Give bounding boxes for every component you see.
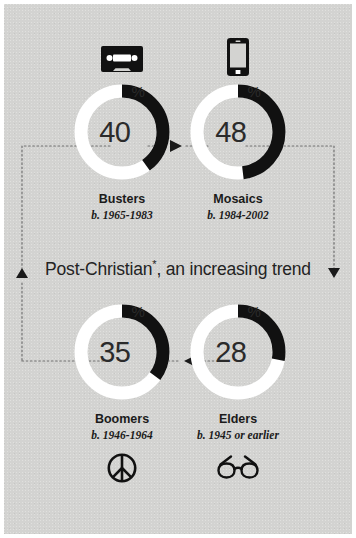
generation-card-boomers: 35 % Boomers b. 1946-1964	[62, 300, 182, 491]
generation-years-busters: b. 1965-1983	[62, 209, 182, 222]
headline-text-main: Post-Christian	[45, 259, 152, 279]
generation-name-mosaics: Mosaics	[178, 193, 298, 207]
donut-chart-elders: 28 %	[186, 300, 290, 404]
peace-sign-icon	[106, 452, 138, 484]
generation-name-busters: Busters	[62, 193, 182, 207]
generation-card-elders: 28 % Elders b. 1945 or earlier	[178, 300, 298, 491]
donut-chart-busters: 40 %	[70, 80, 174, 184]
icon-slot-elders	[178, 445, 298, 491]
generation-years-mosaics: b. 1984-2002	[178, 209, 298, 222]
smartphone-icon	[227, 38, 249, 76]
generation-years-boomers: b. 1946-1964	[62, 429, 182, 442]
icon-slot-busters	[62, 28, 182, 76]
icon-slot-mosaics	[178, 28, 298, 76]
infographic-canvas: 40 % Busters b. 1965-1983 48 %	[0, 0, 356, 538]
generation-card-mosaics: 48 % Mosaics b. 1984-2002	[178, 28, 298, 221]
generation-card-busters: 40 % Busters b. 1965-1983	[62, 28, 182, 221]
donut-chart-mosaics: 48 %	[186, 80, 290, 184]
cassette-tape-icon	[101, 46, 143, 76]
icon-slot-boomers	[62, 445, 182, 491]
generation-name-boomers: Boomers	[62, 413, 182, 427]
page-title: Post-Christian*, an increasing trend	[0, 258, 356, 280]
generation-name-elders: Elders	[178, 413, 298, 427]
generation-years-elders: b. 1945 or earlier	[178, 429, 298, 442]
donut-chart-boomers: 35 %	[70, 300, 174, 404]
eyeglasses-icon	[215, 454, 261, 482]
headline-text-rest: , an increasing trend	[157, 259, 311, 279]
